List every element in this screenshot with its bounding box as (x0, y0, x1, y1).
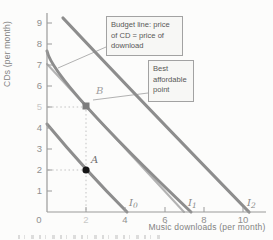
point-b-label: B (95, 85, 103, 96)
y-axis-title: CDs (per month) (2, 21, 12, 87)
budget-box-line2: of CD = price of (111, 31, 178, 42)
y-tick-9: 9 (37, 17, 42, 28)
y-tick-marks (47, 23, 52, 191)
y-tick-8: 8 (37, 38, 42, 49)
curve-label-i0: I0 (128, 197, 138, 210)
y-tick-5-highlighted: 5 (37, 101, 42, 112)
textbook-figure: 9 8 7 6 5 4 3 2 1 0 2 4 6 8 10 A B I0 I1… (0, 0, 273, 240)
point-a-marker (82, 166, 89, 173)
dotted-guide-lines (48, 107, 86, 211)
x-tick-marks (86, 207, 243, 212)
y-tick-3: 3 (37, 143, 42, 154)
budget-box-line1: Budget line: price (111, 20, 178, 31)
budget-box-line3: download (111, 41, 178, 52)
best-affordable-point-annotation-box: Best affordable point (148, 60, 194, 102)
x-tick-0: 0 (36, 214, 41, 225)
curve-label-i2: I2 (246, 197, 256, 210)
x-axis-title: Music downloads (per month) (149, 222, 266, 232)
y-tick-4: 4 (37, 122, 42, 133)
best-box-line2: affordable (153, 75, 189, 86)
x-tick-2-highlighted: 2 (83, 214, 88, 225)
y-tick-7: 7 (37, 59, 42, 70)
point-b-marker (83, 103, 90, 110)
y-tick-2: 2 (37, 164, 42, 175)
best-box-line3: point (153, 85, 189, 96)
y-tick-6: 6 (37, 80, 42, 91)
budget-line-annotation-box: Budget line: price of CD = price of down… (106, 16, 183, 56)
x-tick-4: 4 (122, 214, 127, 225)
point-a-label: A (90, 154, 98, 165)
best-box-line1: Best (153, 64, 189, 75)
cropped-caption-fragment (18, 235, 163, 239)
y-tick-labels: 9 8 7 6 5 4 3 2 1 (37, 17, 42, 196)
y-tick-1: 1 (37, 185, 42, 196)
